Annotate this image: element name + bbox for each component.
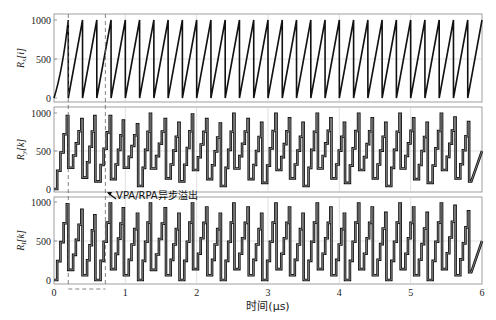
y-tick-label: 1000 [31, 108, 51, 119]
y-tick-label: 0 [46, 184, 51, 195]
x-tick-label: 2 [194, 287, 199, 298]
x-axis-label: 时间(μs) [246, 300, 289, 313]
panel-2: 05001000Ry[k] [15, 107, 482, 195]
chart: 05001000Rx[i]05001000Ry[k]05001000RI[k] … [0, 0, 496, 320]
y-tick-label: 500 [36, 146, 51, 157]
y-tick-label: 500 [36, 236, 51, 247]
y-axis-label: RI[k] [15, 230, 28, 252]
panel-1: 05001000Rx[i] [15, 14, 482, 104]
x-tick-label: 0 [52, 287, 57, 298]
annotation-text: VPA/RPA异步溢出 [116, 189, 198, 201]
y-tick-label: 500 [36, 54, 51, 65]
y-axis-label: Ry[k] [15, 139, 28, 162]
panel-3: 05001000RI[k] [15, 197, 482, 286]
y-tick-label: 0 [46, 93, 51, 104]
y-tick-label: 1000 [31, 15, 51, 26]
x-tick-label: 4 [337, 287, 342, 298]
x-tick-label: 3 [266, 287, 271, 298]
y-tick-label: 0 [46, 275, 51, 286]
x-tick-label: 1 [123, 287, 128, 298]
y-tick-label: 1000 [31, 197, 51, 208]
x-tick-label: 5 [408, 287, 413, 298]
y-axis-label: Rx[i] [15, 48, 28, 69]
x-tick-label: 6 [480, 287, 485, 298]
